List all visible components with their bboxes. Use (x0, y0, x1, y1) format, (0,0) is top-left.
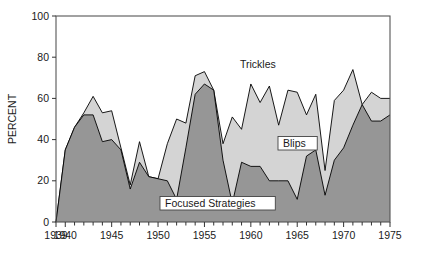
annotation-focused-strategies: Focused Strategies (160, 197, 275, 211)
y-axis-tick-label: 80 (37, 51, 49, 63)
x-axis-tick-label: 1960 (239, 229, 263, 241)
area-chart: 0204060801001939194019451950195519601965… (0, 0, 434, 259)
annotation-blips: Blips (278, 137, 317, 151)
x-axis-tick-label: 1975 (378, 229, 402, 241)
y-axis-tick-label: 20 (37, 174, 49, 186)
x-axis-tick-label: 1945 (100, 229, 124, 241)
annotation-trickles: Trickles (240, 58, 276, 70)
y-axis-title: PERCENT (6, 93, 18, 144)
annotation-label-trickles: Trickles (240, 58, 276, 70)
chart-container: 0204060801001939194019451950195519601965… (0, 0, 434, 259)
y-axis-tick-label: 40 (37, 133, 49, 145)
y-axis-tick-label: 60 (37, 92, 49, 104)
annotation-label-blips: Blips (283, 137, 306, 149)
y-axis-tick-label: 0 (43, 216, 49, 228)
x-axis-tick-label: 1970 (332, 229, 356, 241)
x-axis-tick-label: 1950 (146, 229, 170, 241)
x-axis-tick-label: 1965 (286, 229, 310, 241)
x-axis-tick-label: 1955 (193, 229, 217, 241)
x-axis-tick-label: 1940 (54, 229, 78, 241)
annotation-label-focused-strategies: Focused Strategies (165, 197, 255, 209)
y-axis-tick-label: 100 (31, 10, 49, 22)
